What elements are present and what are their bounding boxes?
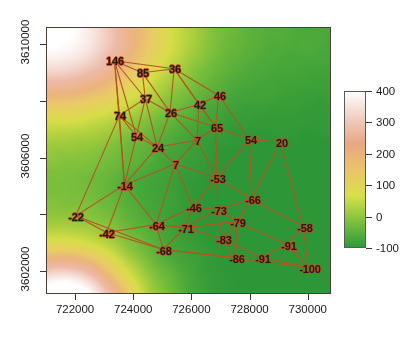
colorbar-tick-label: 100 — [376, 179, 395, 191]
node-value-label: -53 — [210, 173, 225, 185]
node-value-label: -14 — [117, 180, 132, 192]
node-value-label: 42 — [194, 99, 206, 111]
node-value-label: 65 — [211, 122, 223, 134]
node-value-label: 46 — [214, 90, 226, 102]
x-axis-tick-label: 726000 — [172, 303, 210, 315]
network-edge — [216, 127, 217, 178]
y-axis-tick-label: 3602000 — [19, 244, 31, 294]
colorbar-tick-label: 0 — [376, 211, 382, 223]
node-value-label: -66 — [245, 194, 260, 206]
colorbar-tick-label: 400 — [376, 85, 395, 97]
node-value-label: -83 — [216, 234, 231, 246]
network-edge — [76, 115, 120, 215]
network-edge — [107, 185, 125, 233]
network-edge — [156, 164, 175, 225]
colorbar-tick — [366, 248, 372, 249]
y-axis-tick-label: 3606000 — [19, 131, 31, 181]
node-value-label: 146 — [106, 55, 124, 67]
colorbar-tick — [366, 185, 372, 186]
x-axis-tick — [75, 294, 76, 300]
node-value-label: 20 — [276, 137, 288, 149]
node-value-label: -73 — [211, 205, 226, 217]
y-axis-tick — [40, 271, 46, 272]
x-axis-tick — [250, 294, 251, 300]
node-value-label: -71 — [178, 223, 193, 235]
colorbar-tick-label: 200 — [376, 148, 395, 160]
node-value-label: 7 — [195, 135, 201, 147]
y-axis-minor-tick — [40, 214, 46, 215]
x-axis-tick-label: 730000 — [289, 303, 327, 315]
network-edge — [145, 99, 157, 148]
y-axis-tick-label: 3610000 — [19, 17, 31, 67]
x-axis-tick — [133, 294, 134, 300]
triangulation-network-overlay — [47, 28, 330, 293]
network-edge — [107, 233, 164, 250]
colorbar-tick — [366, 154, 372, 155]
node-value-label: -22 — [68, 211, 83, 223]
node-value-label: 26 — [165, 107, 177, 119]
node-value-label: -46 — [186, 202, 201, 214]
node-value-label: -58 — [297, 222, 312, 234]
colorbar-tick — [366, 217, 372, 218]
node-value-label: -68 — [156, 245, 171, 257]
node-value-label: 7 — [173, 159, 179, 171]
node-value-label: -91 — [255, 253, 270, 265]
node-value-label: -64 — [149, 220, 164, 232]
node-value-label: -86 — [229, 253, 244, 265]
node-value-label: 54 — [245, 134, 257, 146]
node-value-label: 85 — [137, 67, 149, 79]
spatial-interpolation-figure: 14685363774264246546554202477-53-14-66-4… — [0, 0, 415, 342]
node-value-label: 54 — [131, 131, 143, 143]
y-axis-tick — [40, 158, 46, 159]
network-edge — [119, 115, 124, 185]
map-plot-panel: 14685363774264246546554202477-53-14-66-4… — [46, 27, 331, 294]
network-edge — [252, 142, 281, 199]
node-value-label: 37 — [140, 93, 152, 105]
network-edge — [250, 139, 252, 199]
x-axis-tick — [308, 294, 309, 300]
network-edge — [170, 69, 174, 113]
network-edge — [219, 96, 250, 140]
node-value-label: -42 — [99, 228, 114, 240]
node-value-label: 74 — [114, 110, 126, 122]
node-value-label: 24 — [152, 142, 164, 154]
colorbar-legend — [344, 91, 366, 248]
colorbar-tick — [366, 122, 372, 123]
x-axis-tick-label: 722000 — [56, 303, 94, 315]
x-axis-tick-label: 728000 — [230, 303, 268, 315]
y-axis-minor-tick — [40, 101, 46, 102]
x-axis-tick-label: 724000 — [114, 303, 152, 315]
x-axis-tick — [191, 294, 192, 300]
node-value-label: -79 — [230, 217, 245, 229]
node-value-label: -100 — [299, 263, 320, 275]
colorbar-tick-label: -100 — [376, 242, 399, 254]
colorbar-tick — [366, 91, 372, 92]
colorbar-tick-label: 300 — [376, 116, 395, 128]
y-axis-tick — [40, 44, 46, 45]
node-value-label: 36 — [169, 63, 181, 75]
node-value-label: -91 — [281, 240, 296, 252]
network-edge — [280, 142, 303, 226]
